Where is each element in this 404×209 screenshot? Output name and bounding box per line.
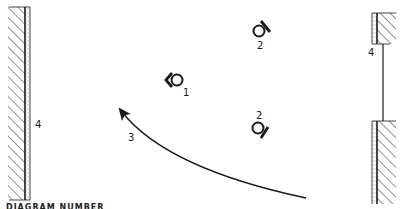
right-wall-upper <box>372 13 396 44</box>
fixture-2-top-label: 2 <box>257 40 263 51</box>
left-wall-label: 4 <box>35 119 41 130</box>
movement-arrow <box>122 112 306 198</box>
fixture-1-icon <box>166 73 183 87</box>
right-wall-lower <box>372 121 396 204</box>
movement-arrow-label: 3 <box>128 132 134 143</box>
fixture-2-bottom-label: 2 <box>256 110 262 121</box>
left-wall <box>8 7 30 200</box>
fixture-2-top-icon <box>254 21 271 37</box>
floor-plan-diagram: 4 4 1 2 2 3 <box>0 0 404 209</box>
wall-hatch <box>8 7 25 200</box>
diagram-caption: DIAGRAM NUMBER <box>6 203 104 209</box>
fixture-2-bottom-icon <box>253 123 269 139</box>
right-wall-label: 4 <box>368 47 374 58</box>
fixture-1-label: 1 <box>183 87 189 98</box>
